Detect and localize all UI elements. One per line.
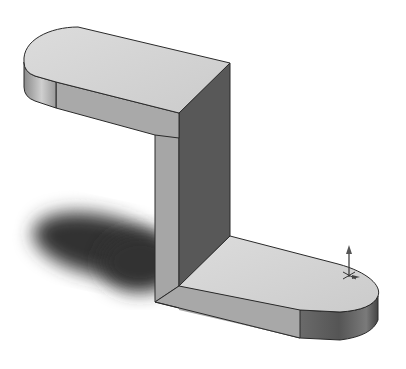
bracket-model-canvas[interactable] — [0, 0, 406, 369]
model-viewport[interactable]: Isometric shaded 3D CAD model of a Z-sha… — [0, 0, 406, 369]
